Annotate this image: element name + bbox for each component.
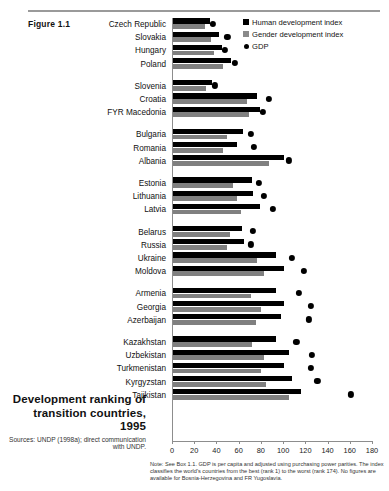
bar-human-development-index	[173, 142, 237, 147]
bar-gender-development-index	[173, 196, 237, 201]
x-axis-tick	[283, 441, 284, 444]
bar-gender-development-index	[173, 86, 206, 91]
category-label: Hungary	[135, 44, 166, 57]
bar-gender-development-index	[173, 382, 266, 387]
chart-row	[172, 106, 372, 119]
category-label: Moldova	[135, 265, 166, 278]
chart-row	[172, 58, 372, 71]
category-label: Slovenia	[135, 80, 166, 93]
bar-gender-development-index	[173, 148, 223, 153]
figure-container: Figure 1.1 Human development indexGender…	[0, 0, 389, 491]
marker-gdp	[212, 82, 218, 88]
marker-gdp	[260, 109, 266, 115]
chart-row	[172, 265, 372, 278]
chart-row	[172, 362, 372, 375]
chart-row	[172, 203, 372, 216]
chart-row	[172, 389, 372, 402]
category-label: Russia	[141, 239, 166, 252]
bar-human-development-index	[173, 18, 210, 23]
caption-block: Development ranking of transition countr…	[6, 393, 146, 451]
chart-row	[172, 190, 372, 203]
bar-human-development-index	[173, 252, 276, 257]
bar-human-development-index	[173, 129, 243, 134]
bar-human-development-index	[173, 58, 231, 63]
marker-gdp	[309, 352, 315, 358]
bar-human-development-index	[173, 266, 284, 271]
chart-row	[172, 142, 372, 155]
marker-gdp	[248, 131, 254, 137]
marker-gdp	[248, 241, 254, 247]
marker-gdp	[251, 144, 257, 150]
bar-human-development-index	[173, 93, 257, 98]
bar-gender-development-index	[173, 183, 233, 188]
category-label: FYR Macedonia	[107, 106, 166, 119]
bar-gender-development-index	[173, 245, 227, 250]
chart-row	[172, 31, 372, 44]
category-label: Armenia	[136, 287, 167, 300]
x-axis-tick-label: 80	[257, 446, 265, 455]
marker-gdp	[250, 228, 256, 234]
chart-row	[172, 301, 372, 314]
category-label: Latvia	[144, 203, 166, 216]
x-axis-tick	[305, 441, 306, 444]
marker-gdp	[222, 47, 228, 53]
category-labels: Czech RepublicSlovakiaHungaryPolandSlove…	[0, 18, 172, 441]
category-label: Turkmenistan	[117, 362, 166, 375]
chart-row	[172, 349, 372, 362]
plot-area: 020406080100120140160180	[172, 18, 372, 441]
bar-gender-development-index	[173, 294, 251, 299]
marker-gdp	[261, 193, 267, 199]
x-axis-tick	[328, 441, 329, 444]
chart-row	[172, 287, 372, 300]
chart-row	[172, 155, 372, 168]
bar-human-development-index	[173, 80, 212, 85]
x-axis-tick	[261, 441, 262, 444]
bar-human-development-index	[173, 155, 284, 160]
marker-gdp	[305, 316, 311, 322]
marker-gdp	[265, 96, 271, 102]
x-axis-tick	[216, 441, 217, 444]
bar-gender-development-index	[173, 307, 261, 312]
chart-row	[172, 336, 372, 349]
x-axis-tick-label: 140	[321, 446, 333, 455]
marker-gdp	[308, 303, 314, 309]
bar-human-development-index	[173, 226, 242, 231]
x-axis-tick-label: 160	[344, 446, 356, 455]
x-axis-tick-label: 60	[235, 446, 243, 455]
category-label: Bulgaria	[136, 128, 166, 141]
marker-gdp	[232, 60, 238, 66]
category-label: Ukraine	[138, 252, 166, 265]
bar-human-development-index	[173, 389, 301, 394]
marker-gdp	[224, 34, 230, 40]
category-label: Estonia	[139, 177, 166, 190]
category-label: Czech Republic	[109, 18, 166, 31]
bar-human-development-index	[173, 363, 284, 368]
chart-row	[172, 177, 372, 190]
bar-human-development-index	[173, 191, 253, 196]
marker-gdp	[289, 255, 295, 261]
caption-sources: Sources: UNDP (1998a); direct communicat…	[6, 436, 146, 452]
x-axis-tick	[372, 441, 373, 444]
chart-row	[172, 128, 372, 141]
marker-gdp	[295, 290, 301, 296]
bar-human-development-index	[173, 314, 281, 319]
category-label: Kazakhstan	[123, 336, 166, 349]
category-label: Albania	[139, 155, 166, 168]
x-axis-tick-label: 100	[277, 446, 289, 455]
bar-human-development-index	[173, 239, 244, 244]
bar-human-development-index	[173, 32, 219, 37]
chart-row	[172, 376, 372, 389]
bar-gender-development-index	[173, 395, 289, 400]
bar-gender-development-index	[173, 161, 269, 166]
chart-row	[172, 44, 372, 57]
chart-row	[172, 226, 372, 239]
category-label: Georgia	[137, 301, 166, 314]
chart-row	[172, 252, 372, 265]
x-axis-tick-label: 20	[190, 446, 198, 455]
chart-row	[172, 314, 372, 327]
category-label: Croatia	[140, 93, 166, 106]
category-label: Lithuania	[133, 190, 166, 203]
bar-human-development-index	[173, 288, 276, 293]
bar-gender-development-index	[173, 271, 264, 276]
category-label: Slovakia	[135, 31, 166, 44]
